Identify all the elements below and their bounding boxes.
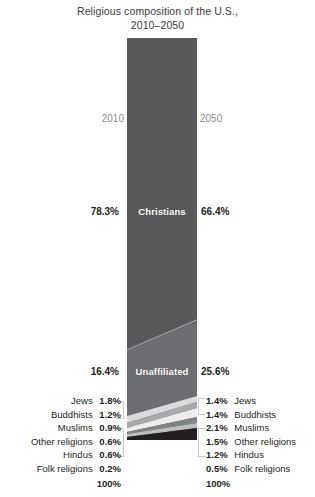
legend-row: 1.2% Hindus <box>206 448 296 462</box>
legend-row: Muslims 0.9% <box>31 421 121 435</box>
legend-value-buddhists: 1.2% <box>97 408 121 422</box>
legend-2050-table: 1.4% Jews 1.4% Buddhists 2.1% Muslims 1.… <box>206 394 296 490</box>
legend-label-muslims: Muslims <box>234 421 296 435</box>
legend-row: Hindus 0.6% <box>31 448 121 462</box>
legend-value-buddhists: 1.4% <box>206 408 234 422</box>
legend-label-buddhists: Buddhists <box>234 408 296 422</box>
stacked-area-plot <box>127 38 197 440</box>
legend-row: Buddhists 1.2% <box>31 408 121 422</box>
legend-value-jews: 1.4% <box>206 394 234 408</box>
legend-label-other-religions: Other religions <box>31 435 97 449</box>
legend-value-hindus: 1.2% <box>206 448 234 462</box>
christians-start-percent: 78.3% <box>49 206 119 217</box>
chart-title: Religious composition of the U.S., 2010–… <box>0 4 315 32</box>
legend-label-muslims: Muslims <box>31 421 97 435</box>
legend-row: 1.4% Jews <box>206 394 296 408</box>
legend-value-other-religions: 0.6% <box>97 435 121 449</box>
legend-row: Folk religions 0.2% <box>31 462 121 476</box>
legend-value-jews: 1.8% <box>97 394 121 408</box>
legend-row: 1.4% Buddhists <box>206 408 296 422</box>
chart-title-line-1: Religious composition of the U.S., <box>0 4 315 18</box>
legend-label-folk-religions: Folk religions <box>234 462 296 476</box>
unaffiliated-start-percent: 16.4% <box>49 366 119 377</box>
unaffiliated-end-percent: 25.6% <box>201 366 271 377</box>
legend-label-buddhists: Buddhists <box>31 408 97 422</box>
legend-total-row: 100% <box>206 476 296 491</box>
christians-end-percent: 66.4% <box>201 206 271 217</box>
legend-row: Other religions 0.6% <box>31 435 121 449</box>
legend-total-2050: 100% <box>206 476 234 491</box>
legend-label-hindus: Hindus <box>234 448 296 462</box>
legend-value-muslims: 0.9% <box>97 421 121 435</box>
chart-title-line-2: 2010–2050 <box>0 18 315 32</box>
legend-value-muslims: 2.1% <box>206 421 234 435</box>
legend-value-hindus: 0.6% <box>97 448 121 462</box>
stacked-area-svg <box>127 38 197 440</box>
legend-total-row: 100% <box>31 476 121 491</box>
legend-2010: Jews 1.8% Buddhists 1.2% Muslims 0.9% Ot… <box>0 394 121 490</box>
legend-row: 0.5% Folk religions <box>206 462 296 476</box>
legend-label-jews: Jews <box>234 394 296 408</box>
legend-label-hindus: Hindus <box>31 448 97 462</box>
year-label-end: 2050 <box>200 113 240 124</box>
band-label-unaffiliated: Unaffiliated <box>127 366 197 377</box>
legend-row: Jews 1.8% <box>31 394 121 408</box>
area-christians <box>127 38 197 350</box>
legend-label-folk-religions: Folk religions <box>31 462 97 476</box>
legend-value-folk-religions: 0.2% <box>97 462 121 476</box>
band-label-christians: Christians <box>127 206 197 217</box>
legend-total-2010: 100% <box>97 476 121 491</box>
legend-value-folk-religions: 0.5% <box>206 462 234 476</box>
legend-value-other-religions: 1.5% <box>206 435 234 449</box>
legend-row: 1.5% Other religions <box>206 435 296 449</box>
legend-2010-table: Jews 1.8% Buddhists 1.2% Muslims 0.9% Ot… <box>31 394 121 490</box>
year-label-start: 2010 <box>88 113 124 124</box>
legend-label-jews: Jews <box>31 394 97 408</box>
religious-composition-chart: Religious composition of the U.S., 2010–… <box>0 0 315 497</box>
legend-2050: 1.4% Jews 1.4% Buddhists 2.1% Muslims 1.… <box>206 394 315 490</box>
legend-label-other-religions: Other religions <box>234 435 296 449</box>
legend-row: 2.1% Muslims <box>206 421 296 435</box>
